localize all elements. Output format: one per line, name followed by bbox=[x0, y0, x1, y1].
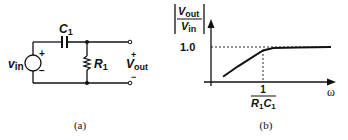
source-minus-sign: − bbox=[39, 65, 45, 76]
circuit-diagram: vin + − C1 R1 + Vout − (a) bbox=[8, 22, 148, 132]
figure-canvas: vin + − C1 R1 + Vout − (a) Vout Vin 1.0 … bbox=[0, 0, 348, 140]
capacitor-label: C1 bbox=[59, 22, 73, 37]
output-terminal-top-icon bbox=[128, 40, 132, 44]
y-tick-label: 1.0 bbox=[180, 41, 195, 53]
caption-b: (b) bbox=[260, 119, 273, 132]
source-plus-sign: + bbox=[39, 48, 45, 59]
x-axis-label: ω bbox=[327, 85, 335, 99]
response-curve bbox=[223, 47, 331, 77]
y-label-denominator: Vin bbox=[181, 20, 196, 34]
frequency-response-plot: Vout Vin 1.0 1 R1C1 ω (b) bbox=[175, 4, 336, 132]
x-tick-denominator: R1C1 bbox=[251, 97, 276, 111]
resistor-icon bbox=[84, 56, 90, 70]
x-tick-numerator: 1 bbox=[260, 84, 266, 95]
output-label: Vout bbox=[126, 57, 148, 72]
y-label-numerator: Vout bbox=[178, 5, 199, 19]
output-minus-sign: − bbox=[131, 72, 136, 82]
caption-a: (a) bbox=[74, 119, 87, 132]
y-axis-arrow-icon bbox=[208, 19, 215, 28]
resistor-label: R1 bbox=[94, 57, 108, 72]
source-label: vin bbox=[8, 57, 24, 72]
